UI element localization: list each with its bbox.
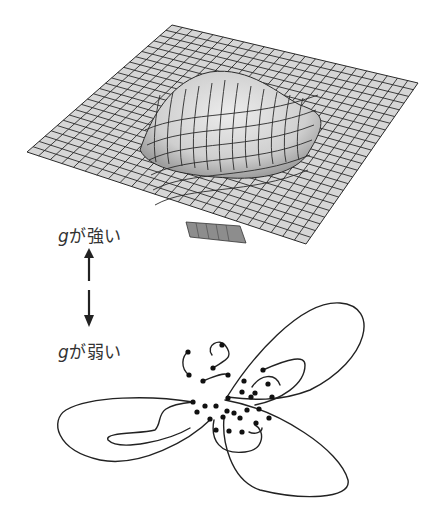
particle-dot: [185, 349, 190, 354]
particle-dot: [225, 372, 230, 377]
particle-dot: [256, 406, 261, 411]
particle-dot: [266, 415, 271, 420]
particle-dot: [237, 415, 242, 420]
label-weak-text: が弱い: [69, 342, 122, 362]
particle-dot: [244, 407, 249, 412]
surface-mesh: [27, 25, 418, 244]
label-weak: gが弱い: [58, 338, 122, 363]
arrow-down-icon: [84, 315, 94, 327]
diagram-canvas: [0, 0, 437, 513]
particle-dot: [219, 342, 224, 347]
label-strong-var: g: [58, 226, 69, 246]
particle-dot: [269, 394, 274, 399]
particle-dot: [253, 420, 258, 425]
particle-dot: [225, 395, 230, 400]
particle-dot: [226, 428, 231, 433]
particle-dot: [207, 416, 212, 421]
particle-dot: [213, 427, 218, 432]
particle-dot: [190, 399, 195, 404]
particle-dot: [252, 390, 257, 395]
particle-dot: [186, 372, 191, 377]
particle-dot: [231, 410, 236, 415]
label-strong-text: が強い: [69, 226, 122, 246]
particle-dots: [185, 342, 274, 434]
particle-dot: [194, 409, 199, 414]
particle-dot: [239, 429, 244, 434]
particle-dot: [241, 378, 246, 383]
particle-dot: [248, 394, 253, 399]
label-strong: gが強い: [58, 222, 122, 247]
label-weak-var: g: [58, 342, 69, 362]
particle-dot: [210, 365, 215, 370]
strength-arrow: [84, 248, 94, 327]
particle-dot: [220, 414, 225, 419]
particle-dot: [239, 389, 244, 394]
arrow-up-icon: [84, 248, 94, 258]
particle-dot: [213, 403, 218, 408]
particle-dot: [200, 378, 205, 383]
particle-dot: [265, 381, 270, 386]
particle-dot: [224, 408, 229, 413]
weak-coupling-curves: [58, 303, 364, 497]
particle-dot: [260, 367, 265, 372]
particle-dot: [202, 403, 207, 408]
